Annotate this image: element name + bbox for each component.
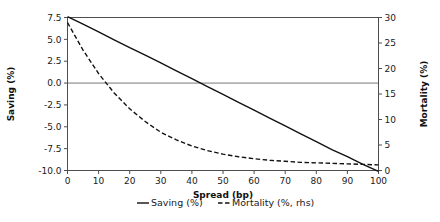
- y-right-tick-label: 30: [385, 13, 397, 23]
- x-tick-label: 0: [65, 176, 71, 186]
- x-tick-label: 20: [124, 176, 136, 186]
- y-left-tick-label: -7.5: [44, 144, 62, 154]
- y-axis-right-title: Mortality (%): [419, 61, 429, 128]
- x-tick-label: 80: [311, 176, 323, 186]
- chart-container: 7.55.02.50.0-2.5-5.0-7.5-10.0 0510152025…: [0, 0, 440, 222]
- x-tick-label: 10: [93, 176, 105, 186]
- y-right-tick-label: 5: [385, 140, 391, 150]
- y-left-tick-label: -10.0: [38, 166, 62, 176]
- y-axis-left-title: Saving (%): [6, 67, 16, 122]
- y-left-tick-label: 7.5: [47, 13, 61, 23]
- x-tick-label: 30: [155, 176, 167, 186]
- legend-label-mortality: Mortality (%, rhs): [232, 197, 314, 208]
- y-left-tick-label: -5.0: [44, 122, 62, 132]
- y-right-tick-label: 20: [385, 64, 397, 74]
- y-right-tick-label: 25: [385, 38, 396, 48]
- y-left-tick-label: 5.0: [47, 35, 62, 45]
- x-tick-label: 100: [370, 176, 387, 186]
- saving-mortality-line-chart: 7.55.02.50.0-2.5-5.0-7.5-10.0 0510152025…: [0, 0, 440, 222]
- y-left-tick-label: 0.0: [47, 78, 62, 88]
- x-tick-label: 70: [279, 176, 291, 186]
- x-tick-label: 50: [217, 176, 229, 186]
- y-right-tick-label: 0: [385, 166, 391, 176]
- x-tick-label: 40: [186, 176, 198, 186]
- x-tick-label: 60: [248, 176, 260, 186]
- y-right-tick-label: 15: [385, 89, 396, 99]
- y-left-tick-label: -2.5: [44, 100, 62, 110]
- y-right-tick-label: 10: [385, 115, 397, 125]
- legend-label-saving: Saving (%): [151, 197, 203, 208]
- y-left-tick-label: 2.5: [47, 56, 61, 66]
- x-tick-label: 90: [342, 176, 354, 186]
